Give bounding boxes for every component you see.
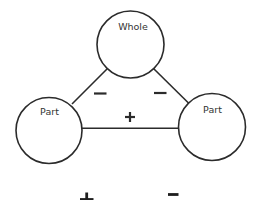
node-part-right: Part	[179, 94, 246, 161]
node-part-left-label: Part	[40, 106, 59, 117]
node-part-left: Part	[16, 98, 82, 164]
legend-plus-sign	[80, 193, 94, 201]
plus-sign-bottom-edge	[125, 112, 135, 122]
edge-whole-to-left-part	[72, 69, 107, 104]
node-whole: Whole	[97, 11, 164, 78]
node-whole-label: Whole	[118, 21, 148, 32]
number-bond-diagram: Whole Part Part	[0, 0, 261, 200]
edge-whole-to-right-part	[154, 69, 190, 105]
node-part-right-label: Part	[203, 104, 222, 115]
